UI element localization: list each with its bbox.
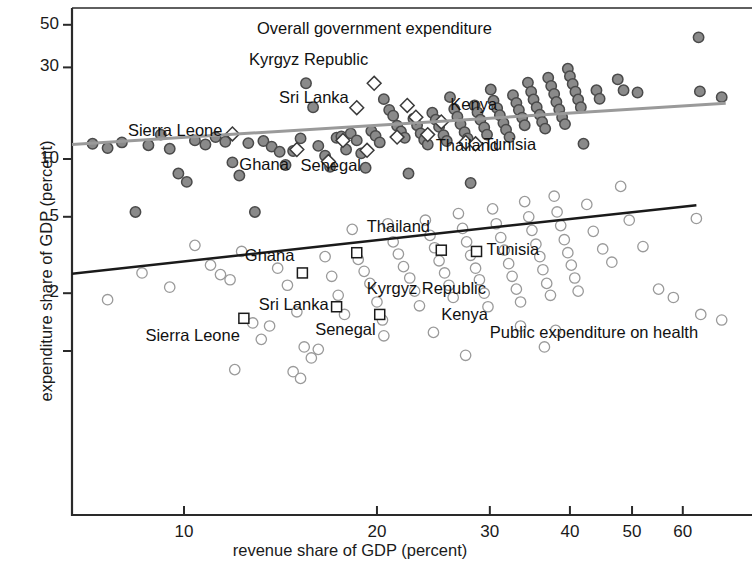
data-point — [320, 251, 330, 261]
data-point — [545, 290, 555, 300]
data-point — [470, 263, 480, 273]
data-point — [379, 331, 389, 341]
data-point — [297, 268, 307, 278]
data-point — [691, 213, 701, 223]
data-point — [515, 297, 525, 307]
data-point — [295, 373, 305, 383]
data-point — [372, 297, 382, 307]
data-point — [352, 248, 362, 258]
data-point — [375, 137, 385, 147]
data-point — [414, 301, 424, 311]
point-label: Sri Lanka — [0, 295, 329, 314]
data-point — [143, 140, 153, 150]
data-point — [400, 99, 414, 113]
data-point — [137, 268, 147, 278]
data-point — [613, 74, 623, 84]
data-point — [461, 237, 471, 247]
data-point — [472, 246, 482, 256]
x-tick-label: 40 — [540, 522, 600, 542]
data-point — [333, 290, 343, 300]
data-point — [549, 191, 559, 201]
x-axis-title: revenue share of GDP (percent) — [0, 541, 700, 560]
data-point — [588, 226, 598, 236]
data-point — [243, 138, 253, 148]
data-point — [486, 84, 496, 94]
point-label: Ghana — [0, 246, 294, 265]
data-point — [552, 207, 562, 217]
data-point — [313, 141, 323, 151]
data-point — [200, 139, 210, 149]
data-point — [524, 212, 534, 222]
data-point — [653, 284, 663, 294]
data-point — [439, 268, 449, 278]
data-point — [360, 163, 370, 173]
data-point — [403, 168, 413, 178]
data-point — [347, 224, 357, 234]
point-label: Kenya — [441, 305, 488, 324]
data-point — [559, 234, 569, 244]
data-point — [434, 256, 444, 266]
data-point — [542, 278, 552, 288]
point-label: Thailand — [367, 217, 430, 236]
data-point — [453, 208, 463, 218]
data-point — [165, 282, 175, 292]
x-tick-label: 10 — [154, 522, 214, 542]
data-point — [102, 143, 112, 153]
data-point — [527, 225, 537, 235]
data-point — [313, 344, 323, 354]
point-label: Senegal — [0, 156, 361, 175]
group-title: Public expenditure on health — [490, 323, 698, 342]
data-point — [306, 353, 316, 363]
data-point — [352, 135, 362, 145]
point-label: Kenya — [450, 95, 497, 114]
data-point — [225, 275, 235, 285]
data-point — [282, 280, 292, 290]
data-point — [375, 309, 385, 319]
data-point — [624, 215, 634, 225]
data-point — [695, 86, 705, 96]
data-point — [638, 241, 648, 251]
point-label: Kyrgyz Republic — [0, 50, 368, 69]
data-point — [428, 327, 438, 337]
data-point — [327, 271, 337, 281]
data-point — [717, 92, 727, 102]
data-point — [359, 266, 369, 276]
point-label: Sierra Leone — [0, 121, 222, 140]
data-point — [563, 248, 573, 258]
data-point — [393, 249, 403, 259]
data-point — [436, 245, 446, 255]
data-point — [693, 32, 703, 42]
x-tick-label: 30 — [460, 522, 520, 542]
data-point — [379, 94, 389, 104]
point-label: Senegal — [0, 320, 376, 339]
y-tick-label: 5 — [14, 206, 59, 226]
data-point — [519, 120, 529, 130]
data-point — [519, 196, 529, 206]
data-point — [607, 257, 617, 267]
data-point — [582, 199, 592, 209]
data-point — [165, 144, 175, 154]
data-point — [182, 177, 192, 187]
data-point — [668, 292, 678, 302]
point-label: Tunisia — [487, 240, 540, 259]
data-point — [578, 139, 588, 149]
data-point — [230, 364, 240, 374]
data-point — [398, 261, 408, 271]
data-point — [594, 94, 604, 104]
scatter-plot-figure: expenditure share of GDP (percent) reven… — [0, 0, 752, 572]
data-point — [487, 204, 497, 214]
data-point — [250, 207, 260, 217]
data-point — [539, 342, 549, 352]
group-title: Overall government expenditure — [257, 19, 492, 38]
data-point — [560, 119, 570, 129]
data-point — [507, 271, 517, 281]
data-point — [465, 178, 475, 188]
data-point — [367, 76, 381, 90]
data-point — [299, 342, 309, 352]
data-point — [215, 269, 225, 279]
point-label: Sri Lanka — [0, 88, 349, 107]
y-tick-label: 50 — [14, 14, 59, 34]
data-point — [538, 265, 548, 275]
point-label: Kyrgyz Republic — [367, 279, 486, 298]
data-point — [632, 87, 642, 97]
